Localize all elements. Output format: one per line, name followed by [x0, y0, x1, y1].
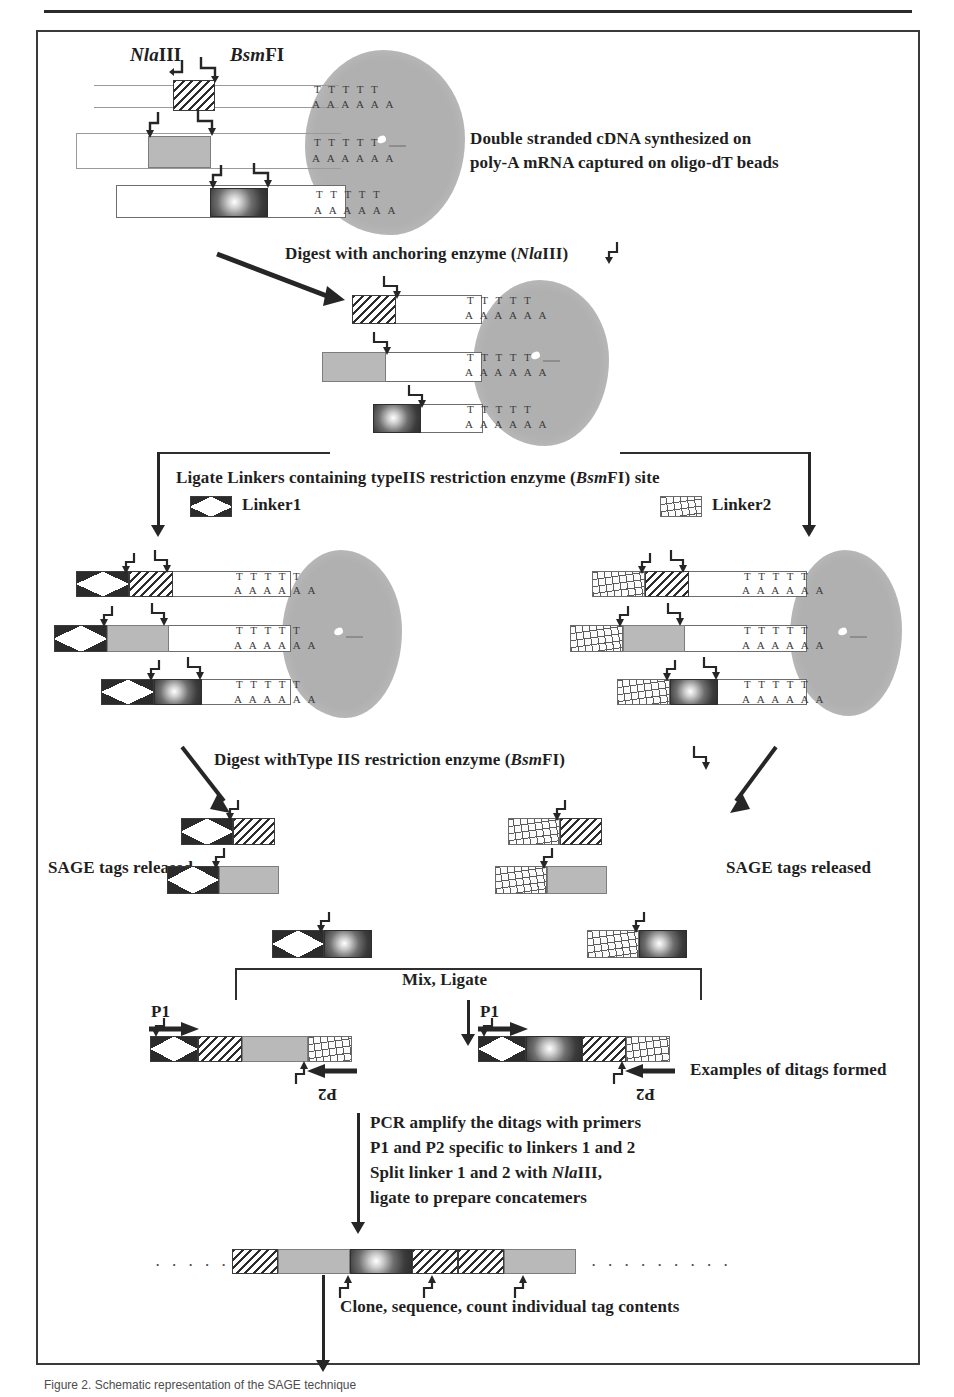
- branch-bracket-right: [620, 452, 810, 466]
- poly-t-c: T T T T T: [316, 189, 382, 200]
- poly-t-lc: T T T T T: [236, 679, 302, 690]
- final-arrowhead: [316, 1360, 330, 1372]
- cut-site-rb-1: [612, 604, 638, 630]
- concatemer-tag-grey-1: [278, 1249, 350, 1274]
- poly-a-a: A A A A A A: [312, 99, 396, 110]
- cut-site-ditag-left-1: [148, 1016, 174, 1040]
- legend-label-linker2: Linker2: [712, 495, 771, 515]
- cut-site-marker-bsmFI-c: [248, 160, 282, 194]
- cut-site-lc-2: [182, 655, 212, 685]
- ditag-left-linker2: [308, 1036, 352, 1062]
- cut-site-released-b: [208, 846, 234, 872]
- cut-site-released-c: [313, 910, 339, 936]
- concatemer-tag-hatched-1: [232, 1249, 278, 1274]
- primer-p2-right-arrow: [623, 1063, 675, 1079]
- step4-text: Digest withType IIS restriction enzyme (…: [214, 750, 565, 770]
- legend-swatch-linker2: [660, 496, 702, 517]
- cut-site-marker-step2: [603, 240, 625, 264]
- cut-site-released-rb: [536, 846, 562, 872]
- concatemer-tag-grey-2: [504, 1249, 576, 1274]
- cut-site-ra-2: [665, 548, 695, 578]
- ditag-right-tag-glow: [526, 1036, 582, 1062]
- cut-site-marker-d-c: [403, 383, 435, 411]
- branch-stem-left: [157, 452, 160, 528]
- poly-a-d-a: A A A A A A: [465, 310, 549, 321]
- ditag-right-linker2: [626, 1036, 670, 1062]
- poly-t-ra: T T T T T: [744, 571, 810, 582]
- cut-site-marker-step4: [690, 744, 716, 772]
- poly-a-ra: A A A A A A: [742, 585, 826, 596]
- ditags-label: Examples of ditags formed: [690, 1060, 887, 1080]
- poly-t-lb: T T T T T: [236, 625, 302, 636]
- bead-tick-2: [543, 360, 560, 362]
- cut-site-marker-d-a: [378, 274, 410, 302]
- cut-site-marker-bsmFI-a: [195, 54, 229, 88]
- bead-highlight-right: [837, 627, 848, 636]
- concatemer-tag-hatched-3: [458, 1249, 504, 1274]
- poly-t-rb: T T T T T: [744, 625, 810, 636]
- figure-page: NlaIII BsmFI T T T T T A A A A A A T T T…: [0, 0, 954, 1397]
- flow-arrow-diagonal-step2: [215, 250, 345, 308]
- primer-p2-left-arrow: [305, 1063, 357, 1079]
- primer-p2-right-label: P2: [636, 1084, 655, 1104]
- step1-text: Double stranded cDNA synthesized on poly…: [470, 127, 779, 175]
- pcr-arrowhead: [351, 1222, 365, 1234]
- poly-a-lc: A A A A A A: [234, 694, 318, 705]
- cut-site-lb-1: [96, 604, 122, 630]
- mix-ligate-label: Mix, Ligate: [402, 970, 487, 990]
- mix-ligate-arrowhead: [461, 1034, 475, 1046]
- step3-text: Ligate Linkers containing typeIIS restri…: [176, 468, 660, 488]
- pcr-step-text: PCR amplify the ditags with primers P1 a…: [370, 1110, 641, 1210]
- label-bsmFI-top: BsmFI: [230, 44, 284, 66]
- cut-site-rc-1: [659, 658, 685, 684]
- poly-a-d-b: A A A A A A: [465, 367, 549, 378]
- ditag-right-tag-hatched: [582, 1036, 626, 1062]
- poly-a-b: A A A A A A: [312, 153, 396, 164]
- final-step-label: Clone, sequence, count individual tag co…: [340, 1297, 679, 1317]
- cut-site-marker-nlaIII-b: [140, 110, 170, 142]
- poly-a-lb: A A A A A A: [234, 640, 318, 651]
- cut-site-lb-2: [146, 601, 176, 631]
- concatemer-tag-glow-1: [350, 1249, 412, 1274]
- cut-site-marker-d-b: [368, 330, 400, 358]
- page-top-rule: [44, 10, 912, 13]
- pcr-arrow-stem: [357, 1113, 360, 1226]
- poly-t-d-a: T T T T T: [467, 295, 533, 306]
- cut-site-ra-1: [634, 551, 660, 577]
- cut-site-rb-2: [662, 601, 692, 631]
- primer-p2-left-label: P2: [318, 1084, 337, 1104]
- poly-t-la: T T T T T: [236, 571, 302, 582]
- branch-stem-right: [808, 452, 811, 528]
- poly-t-a: T T T T T: [314, 84, 380, 95]
- poly-a-rc: A A A A A A: [742, 694, 826, 705]
- ditag-left-tag-hatched: [198, 1036, 242, 1062]
- poly-t-rc: T T T T T: [744, 679, 810, 690]
- concatemer-dots-right: . . . . . . . . .: [592, 1254, 732, 1270]
- mix-ligate-arrow-stem: [467, 1000, 470, 1038]
- cut-site-marker-nlaIII-a: [162, 58, 192, 88]
- ditag-left-tag-grey: [242, 1036, 308, 1062]
- cdna-cap-b: [76, 133, 77, 169]
- cut-site-ditag-right-1: [476, 1016, 502, 1040]
- bead-tick: [389, 145, 406, 147]
- cut-site-lc-1: [143, 658, 169, 684]
- cut-site-released-rc: [628, 910, 654, 936]
- final-arrow-stem: [322, 1275, 325, 1369]
- poly-t-b: T T T T T: [314, 137, 380, 148]
- cut-site-la-2: [149, 548, 179, 578]
- legend-swatch-linker1: [190, 496, 232, 517]
- poly-t-d-b: T T T T T: [467, 352, 533, 363]
- concatemer-tag-hatched-2: [412, 1249, 458, 1274]
- poly-a-d-c: A A A A A A: [465, 419, 549, 430]
- bead-tick-left: [346, 636, 363, 638]
- sage-tags-right-label: SAGE tags released: [726, 858, 871, 878]
- branch-arrowhead-right: [802, 525, 816, 537]
- cut-site-marker-bsmFI-b: [192, 107, 226, 141]
- poly-a-c: A A A A A A: [314, 205, 398, 216]
- legend-label-linker1: Linker1: [242, 495, 301, 515]
- cut-site-la-1: [118, 551, 144, 577]
- cut-site-released-ra: [549, 798, 575, 824]
- figure-caption: Figure 2. Schematic representation of th…: [44, 1378, 356, 1392]
- poly-a-rb: A A A A A A: [742, 640, 826, 651]
- poly-a-la: A A A A A A: [234, 585, 318, 596]
